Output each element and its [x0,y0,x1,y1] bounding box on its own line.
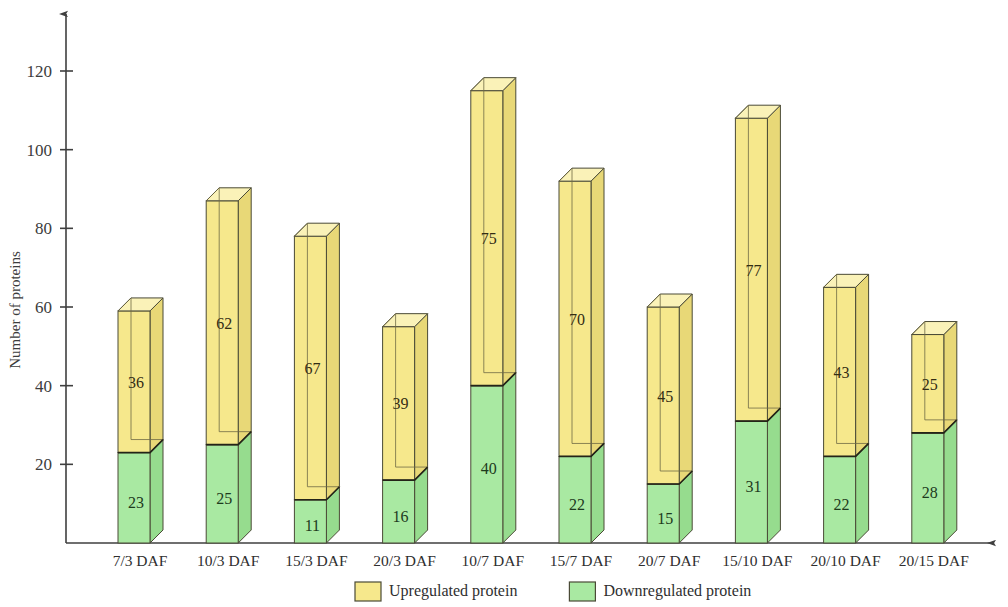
x-axis-label: 20/15 DAF [899,552,970,569]
x-axis-label: 10/3 DAF [197,552,260,569]
bar-value-downregulated: 11 [305,517,320,534]
x-axis-label: 20/3 DAF [373,552,436,569]
bar-value-upregulated: 62 [216,315,232,332]
legend-swatch [355,582,381,601]
bar-value-downregulated: 22 [834,496,850,513]
bar-value-downregulated: 15 [657,510,673,527]
y-tick-label: 120 [27,62,53,81]
bar-value-downregulated: 25 [216,490,232,507]
bar-group [912,322,957,543]
x-axis-label: 15/7 DAF [550,552,613,569]
bar-value-downregulated: 31 [745,478,761,495]
bar-value-downregulated: 28 [922,484,938,501]
y-tick-label: 20 [35,455,52,474]
bar-value-downregulated: 23 [128,494,144,511]
bar-group [294,223,339,543]
bar-value-downregulated: 22 [569,496,585,513]
y-tick-label: 60 [35,298,52,317]
bar-value-upregulated: 25 [922,376,938,393]
y-tick-label: 100 [27,141,53,160]
x-axis-label: 20/7 DAF [638,552,701,569]
legend-label: Upregulated protein [389,582,517,600]
category-labels: 7/3 DAF10/3 DAF15/3 DAF20/3 DAF10/7 DAF1… [113,552,970,569]
bar-value-upregulated: 77 [745,262,761,279]
bar-value-upregulated: 67 [304,360,320,377]
bar-value-upregulated: 36 [128,374,144,391]
x-axis-label: 7/3 DAF [113,552,168,569]
y-axis-title: Number of proteins [7,251,23,369]
x-axis-label: 15/10 DAF [722,552,793,569]
protein-count-chart: 20406080100120 Number of proteins 362362… [0,0,1008,607]
chart-legend: Upregulated proteinDownregulated protein [355,582,751,601]
bars-group: 3623622567113916754070224515773143222528 [118,78,957,543]
bar-value-upregulated: 45 [657,388,673,405]
x-axis-label: 10/7 DAF [462,552,525,569]
y-tick-label: 40 [35,377,52,396]
bar-value-downregulated: 40 [481,460,497,477]
bar-value-upregulated: 39 [393,395,409,412]
bar-value-downregulated: 16 [393,508,409,525]
bar-group [559,168,604,543]
chart-canvas: 20406080100120 Number of proteins 362362… [0,0,1008,607]
legend-label: Downregulated protein [603,582,751,600]
x-axis-label: 20/10 DAF [810,552,881,569]
y-tick-label: 80 [35,219,52,238]
bar-value-upregulated: 75 [481,230,497,247]
bar-value-upregulated: 43 [834,364,850,381]
legend-swatch [569,582,595,601]
x-axis-label: 15/3 DAF [285,552,348,569]
bar-group [647,294,692,543]
bar-value-upregulated: 70 [569,311,585,328]
